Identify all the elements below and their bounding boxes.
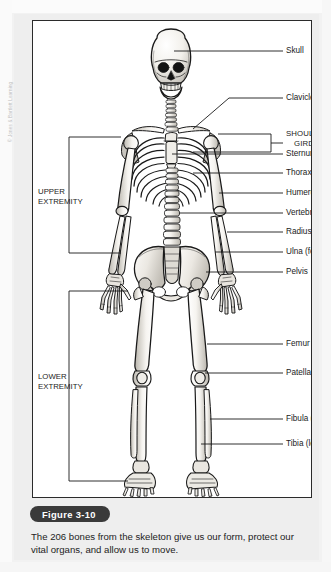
- figure-caption: The 206 bones from the skeleton give us …: [31, 530, 303, 556]
- scan-edge-top: [0, 0, 331, 13]
- left-arm-bones: [100, 148, 135, 314]
- label-patella: Patella: [286, 369, 311, 378]
- screenshot-page: © Jones & Bartlett Learning: [0, 0, 331, 572]
- scan-edge-right: [322, 0, 331, 572]
- label-ulna: Ulna (forearm): [286, 248, 312, 257]
- label-upper-extremity-line1: UPPER: [38, 187, 65, 197]
- right-leg-bones: [187, 287, 219, 497]
- figure-number-badge: Figure 3-10: [30, 506, 110, 522]
- skeleton-illustration: [33, 21, 311, 497]
- label-humerus: Humerus (arm): [286, 189, 312, 198]
- scan-edge-bottom: [0, 562, 331, 572]
- left-patella: [137, 372, 147, 384]
- leader-clavicle: [193, 98, 283, 129]
- label-fibula: Fibula (leg): [286, 415, 312, 424]
- skull-bone: [151, 29, 190, 99]
- copyright-notice: © Jones & Bartlett Learning: [8, 32, 13, 142]
- label-upper-extremity-line2: EXTREMITY: [38, 197, 83, 207]
- skeleton-diagram-svg: [33, 21, 311, 497]
- label-lower-extremity-line1: LOWER: [38, 372, 67, 382]
- label-femur: Femur: [286, 340, 310, 349]
- label-vertebra: Vertebra: [286, 209, 312, 218]
- label-pelvis: Pelvis: [286, 268, 308, 277]
- label-radius: Radius (forearm): [286, 228, 312, 237]
- right-patella: [195, 372, 205, 384]
- label-clavicle: Clavicle: [286, 94, 312, 103]
- label-shoulder-girdle-line2: GIRDLE: [294, 140, 312, 148]
- left-leg-bones: [123, 287, 155, 497]
- label-lower-extremity-line2: EXTREMITY: [38, 382, 83, 392]
- label-shoulder-girdle-line1: SHOULDER: [286, 130, 312, 138]
- figure-card: © Jones & Bartlett Learning: [14, 14, 319, 560]
- sternum-bone: [166, 133, 178, 172]
- label-sternum: Sternum: [286, 150, 312, 159]
- figure-illustration-frame: Skull Clavicle SHOULDER GIRDLE Sternum T…: [32, 20, 312, 498]
- bracket-upper-extremity: [69, 137, 121, 253]
- cervical-spine: [165, 100, 177, 126]
- label-skull: Skull: [286, 47, 304, 56]
- label-tibia: Tibia (leg): [286, 440, 312, 449]
- label-thorax: Thorax (rib cage): [286, 169, 312, 178]
